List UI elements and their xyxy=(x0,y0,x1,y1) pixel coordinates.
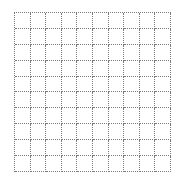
grid-cell xyxy=(46,77,62,93)
grid-cell xyxy=(31,140,47,156)
grid-cell xyxy=(124,45,140,61)
grid-cell xyxy=(15,92,31,108)
grid-cell xyxy=(46,61,62,77)
grid-cell xyxy=(15,108,31,124)
grid-cell xyxy=(15,156,31,172)
grid-cell xyxy=(155,61,171,77)
grid-cell xyxy=(155,140,171,156)
grid-cell xyxy=(109,140,125,156)
grid-cell xyxy=(31,45,47,61)
grid-cell xyxy=(77,124,93,140)
grid-cell xyxy=(140,140,156,156)
grid-cell xyxy=(77,92,93,108)
grid-cell xyxy=(93,140,109,156)
grid-cell xyxy=(109,92,125,108)
grid-cell xyxy=(140,156,156,172)
grid-cell xyxy=(109,156,125,172)
grid-cell xyxy=(31,61,47,77)
grid-cell xyxy=(77,61,93,77)
grid-cell xyxy=(155,45,171,61)
grid-cell xyxy=(62,140,78,156)
grid-cell xyxy=(15,45,31,61)
grid-cell xyxy=(124,140,140,156)
grid-cell xyxy=(140,124,156,140)
grid-cell xyxy=(93,29,109,45)
grid-cell xyxy=(124,124,140,140)
grid-cell xyxy=(31,156,47,172)
grid-cell xyxy=(93,45,109,61)
grid-cell xyxy=(155,92,171,108)
grid-cell xyxy=(109,61,125,77)
grid-cell xyxy=(15,77,31,93)
grid-cell xyxy=(140,77,156,93)
grid-cell xyxy=(109,45,125,61)
grid-cell xyxy=(140,45,156,61)
grid-cell xyxy=(77,156,93,172)
grid-cell xyxy=(31,92,47,108)
grid-cell xyxy=(155,77,171,93)
grid-cell xyxy=(46,92,62,108)
grid-cell xyxy=(46,13,62,29)
grid-cell xyxy=(155,29,171,45)
grid-cell xyxy=(124,156,140,172)
grid-cell xyxy=(15,124,31,140)
grid-cell xyxy=(62,13,78,29)
grid-cell xyxy=(140,29,156,45)
grid-cell xyxy=(155,13,171,29)
grid-cell xyxy=(93,13,109,29)
grid-cell xyxy=(62,92,78,108)
grid-cell xyxy=(62,61,78,77)
grid-cell xyxy=(62,45,78,61)
grid-cell xyxy=(124,92,140,108)
grid-cell xyxy=(31,124,47,140)
grid-cell xyxy=(46,156,62,172)
grid-cell xyxy=(93,77,109,93)
grid-cell xyxy=(124,61,140,77)
grid-cell xyxy=(124,108,140,124)
grid-cell xyxy=(77,140,93,156)
grid-cell xyxy=(140,61,156,77)
grid-cell xyxy=(31,13,47,29)
grid-cell xyxy=(77,108,93,124)
grid-cell xyxy=(93,156,109,172)
grid-cell xyxy=(62,77,78,93)
grid-cell xyxy=(46,124,62,140)
grid-cell xyxy=(109,13,125,29)
grid-cell xyxy=(31,29,47,45)
grid-cell xyxy=(140,108,156,124)
grid-cell xyxy=(62,108,78,124)
grid-cell xyxy=(46,140,62,156)
grid-cell xyxy=(31,77,47,93)
grid-cell xyxy=(155,156,171,172)
grid-cell xyxy=(46,108,62,124)
grid-cell xyxy=(109,124,125,140)
grid-cell xyxy=(124,77,140,93)
grid-cell xyxy=(93,124,109,140)
grid-cell xyxy=(124,13,140,29)
grid-cell xyxy=(155,108,171,124)
grid-cell xyxy=(62,156,78,172)
grid-cell xyxy=(15,29,31,45)
dotted-grid xyxy=(14,12,171,172)
grid-cell xyxy=(46,29,62,45)
grid-cell xyxy=(109,29,125,45)
grid-cell xyxy=(77,77,93,93)
grid-cell xyxy=(77,29,93,45)
grid-cell xyxy=(15,140,31,156)
grid-cell xyxy=(124,29,140,45)
grid-cell xyxy=(77,13,93,29)
grid-cell xyxy=(77,45,93,61)
grid-cell xyxy=(62,124,78,140)
grid-cell xyxy=(140,92,156,108)
grid-cell xyxy=(93,61,109,77)
grid-cell xyxy=(15,13,31,29)
grid-cell xyxy=(31,108,47,124)
grid-cell xyxy=(155,124,171,140)
grid-cell xyxy=(15,61,31,77)
grid-cell xyxy=(109,108,125,124)
grid-cell xyxy=(62,29,78,45)
grid-cell xyxy=(46,45,62,61)
grid-cell xyxy=(93,92,109,108)
grid-cell xyxy=(93,108,109,124)
grid-cell xyxy=(109,77,125,93)
